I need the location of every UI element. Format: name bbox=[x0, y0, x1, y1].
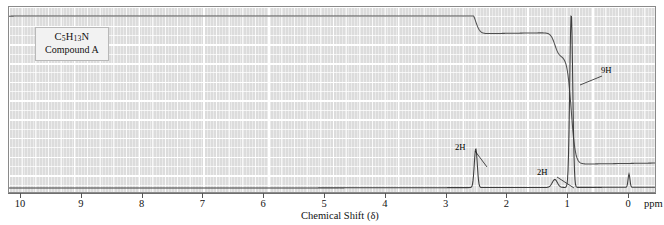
formula-c: C bbox=[54, 31, 61, 42]
axis-tick-label: 2 bbox=[504, 198, 509, 209]
axis-tick-label: 3 bbox=[443, 198, 448, 209]
axis-tick-label: 0 bbox=[625, 198, 630, 209]
axis-title: Chemical Shift (δ) bbox=[301, 210, 379, 221]
axis-line bbox=[8, 193, 656, 194]
axis-tick-label: 5 bbox=[321, 198, 326, 209]
integral-label-9h: 9H bbox=[601, 65, 612, 75]
molecular-formula: C5H13N bbox=[45, 31, 99, 44]
axis-tick-label: 6 bbox=[261, 198, 266, 209]
integral-label-2h-upfield-a: 2H bbox=[455, 142, 466, 152]
x-axis: 109876543210 ppm Chemical Shift (δ) bbox=[8, 193, 656, 225]
axis-tick-label: 1 bbox=[565, 198, 570, 209]
nmr-spectrum-figure: C5H13N Compound A 2H 2H 9H 109876543210 … bbox=[0, 0, 664, 225]
axis-tick-label: 7 bbox=[200, 198, 205, 209]
axis-tick-label: 10 bbox=[15, 198, 26, 209]
compound-label-box: C5H13N Compound A bbox=[35, 27, 109, 61]
spectrum-plot-area: C5H13N Compound A bbox=[8, 6, 656, 193]
axis-unit-label: ppm bbox=[644, 198, 663, 209]
formula-n: N bbox=[81, 31, 89, 42]
axis-tick-label: 8 bbox=[139, 198, 144, 209]
axis-tick-label: 9 bbox=[78, 198, 83, 209]
axis-tick-label: 4 bbox=[382, 198, 387, 209]
compound-name: Compound A bbox=[45, 44, 99, 56]
integral-label-2h-upfield-b: 2H bbox=[537, 167, 548, 177]
